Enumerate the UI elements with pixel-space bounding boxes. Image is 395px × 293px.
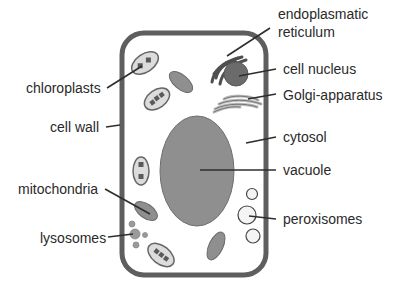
label-mitochondria: mitochondria	[18, 181, 98, 197]
label-endoplasmatic-reticulum: endoplasmatic	[278, 6, 368, 22]
label-endoplasmatic-reticulum-line2: reticulum	[278, 24, 335, 40]
plant-cell-diagram	[0, 0, 395, 293]
cell-nucleus	[224, 62, 248, 86]
label-lysosomes: lysosomes	[40, 230, 106, 246]
chloroplast	[133, 157, 149, 185]
label-cell-nucleus: cell nucleus	[283, 61, 356, 77]
label-peroxisomes: peroxisomes	[283, 211, 362, 227]
label-vacuole: vacuole	[283, 162, 331, 178]
label-cell-wall: cell wall	[50, 119, 99, 135]
label-cytosol: cytosol	[283, 129, 327, 145]
vacuole	[160, 116, 234, 226]
label-chloroplasts: chloroplasts	[26, 80, 101, 96]
label-golgi-apparatus: Golgi-apparatus	[283, 87, 383, 103]
